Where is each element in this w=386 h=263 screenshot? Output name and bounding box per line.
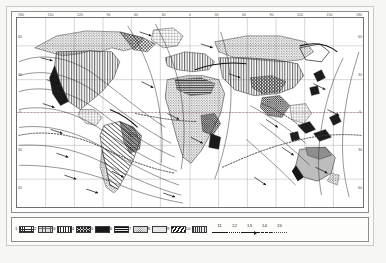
legend-swatch-dark-checker-stipple-icon <box>192 226 207 233</box>
legend-swatch-fine-grid-hatch-icon <box>19 226 34 233</box>
map-legend: 1 2 3 4 5 <box>11 217 369 242</box>
legend-item-2[interactable]: 2 <box>34 226 53 233</box>
legend-item-14[interactable]: 14 <box>257 224 272 235</box>
legend-number: 1 <box>15 227 17 231</box>
legend-number: 2 <box>34 227 36 231</box>
legend-item-4[interactable]: 4 <box>72 226 91 233</box>
legend-number: 5 <box>91 227 93 231</box>
legend-swatch-fine-dotted-line-icon <box>272 228 287 235</box>
landmass-greenland <box>151 28 183 48</box>
legend-swatch-bold-diagonal-hatch-icon <box>171 226 186 233</box>
legend-swatch-dashed-line-icon <box>257 228 272 235</box>
legend-swatch-solid-line-icon <box>212 228 227 235</box>
legend-swatch-solid-black-fill-icon <box>95 226 110 233</box>
legend-item-15[interactable]: 15 <box>272 224 287 235</box>
figure-page: 180 150 120 90 60 30 0 30 60 90 120 150 … <box>0 0 386 263</box>
legend-item-13[interactable]: 13 <box>242 224 257 235</box>
legend-swatch-dense-horizontal-hatch-icon <box>114 226 129 233</box>
legend-swatch-light-gray-tone-icon <box>152 226 167 233</box>
legend-item-6[interactable]: 6 <box>110 226 129 233</box>
legend-swatch-dotted-line-icon <box>227 228 242 235</box>
legend-items-row: 1 2 3 4 5 <box>15 218 365 241</box>
figure-sheet: 180 150 120 90 60 30 0 30 60 90 120 150 … <box>6 6 374 246</box>
legend-number: 7 <box>129 227 131 231</box>
legend-number: 6 <box>110 227 112 231</box>
landmass-africa-europe <box>165 52 224 163</box>
map-frame: 180 150 120 90 60 30 0 30 60 90 120 150 … <box>11 11 369 213</box>
map-plot-area: 60 30 0 30 60 60 30 0 30 60 <box>16 17 364 208</box>
landmass-north-america <box>35 31 156 126</box>
legend-number: 4 <box>72 227 74 231</box>
legend-swatch-light-stipple-icon <box>133 226 148 233</box>
legend-item-9[interactable]: 9 <box>167 226 186 233</box>
legend-item-7[interactable]: 7 <box>129 226 148 233</box>
legend-swatch-gray-mesh-stipple-icon <box>38 226 53 233</box>
legend-number: 10 <box>186 227 191 231</box>
legend-number: 3 <box>53 227 55 231</box>
legend-swatch-vertical-line-hatch-icon <box>57 226 72 233</box>
legend-number: 9 <box>167 227 169 231</box>
legend-item-1[interactable]: 1 <box>15 226 34 233</box>
legend-swatch-arrow-line-icon <box>242 228 257 235</box>
legend-item-10[interactable]: 10 <box>186 226 207 233</box>
legend-item-8[interactable]: 8 <box>148 226 167 233</box>
landmass-south-america <box>100 121 142 193</box>
landmass-australia <box>292 147 339 185</box>
map-drawing <box>17 18 363 207</box>
legend-swatch-cross-diagonal-hatch-icon <box>76 226 91 233</box>
legend-item-5[interactable]: 5 <box>91 226 110 233</box>
legend-item-12[interactable]: 12 <box>227 224 242 235</box>
legend-item-3[interactable]: 3 <box>53 226 72 233</box>
legend-item-11[interactable]: 11 <box>212 224 227 235</box>
legend-number: 8 <box>148 227 150 231</box>
